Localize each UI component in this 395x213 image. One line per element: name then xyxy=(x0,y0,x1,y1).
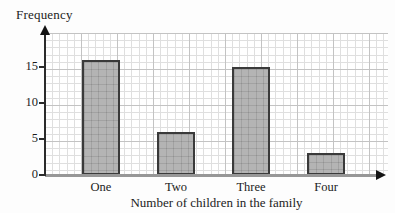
bar-chart: Frequency 051015 OneTwoThreeFour Number … xyxy=(0,0,395,213)
x-axis-title: Number of children in the family xyxy=(45,195,388,211)
y-tick-10 xyxy=(39,102,46,104)
category-label-two: Two xyxy=(138,180,214,195)
category-label-three: Three xyxy=(213,180,289,195)
y-axis-arrow-up-icon xyxy=(40,25,50,35)
bar-two xyxy=(157,132,195,175)
plot-area xyxy=(45,33,388,175)
y-axis-label: Frequency xyxy=(16,7,73,23)
category-label-four: Four xyxy=(288,180,364,195)
y-tick-0 xyxy=(39,174,46,176)
y-tick-label-15: 15 xyxy=(10,59,38,74)
bar-four xyxy=(307,153,345,175)
y-tick-label-5: 5 xyxy=(10,131,38,146)
y-tick-label-10: 10 xyxy=(10,95,38,110)
x-axis-line xyxy=(45,174,377,177)
bar-one xyxy=(82,60,120,175)
category-label-one: One xyxy=(63,180,139,195)
y-tick-15 xyxy=(39,66,46,68)
bar-three xyxy=(232,67,270,175)
y-tick-label-0: 0 xyxy=(10,167,38,182)
x-axis-arrow-right-icon xyxy=(376,170,386,180)
y-tick-5 xyxy=(39,138,46,140)
